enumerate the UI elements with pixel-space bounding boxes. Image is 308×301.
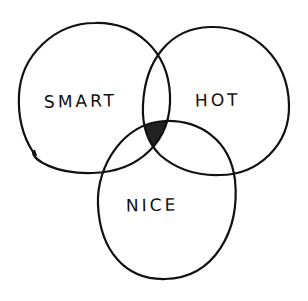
- smart-label: SMART: [44, 92, 117, 110]
- hot-label: HOT: [195, 92, 241, 110]
- nice-label: NICE: [126, 197, 179, 215]
- venn-diagram: [0, 0, 308, 301]
